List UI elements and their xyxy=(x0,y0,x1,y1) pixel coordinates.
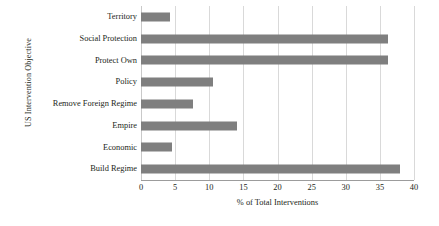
bar-row xyxy=(141,115,414,137)
bar-row xyxy=(141,28,414,50)
x-tick-label: 25 xyxy=(297,183,327,192)
bar xyxy=(141,12,170,21)
gridline-40 xyxy=(414,6,415,180)
bar-row xyxy=(141,71,414,93)
category-label: Territory xyxy=(0,6,137,28)
bar xyxy=(141,121,237,130)
x-tick-label: 35 xyxy=(365,183,395,192)
bar-row xyxy=(141,137,414,159)
category-label-list: TerritorySocial ProtectionProtect OwnPol… xyxy=(0,6,137,180)
x-tick-label: 20 xyxy=(263,183,293,192)
category-label: Economic xyxy=(0,137,137,159)
bar xyxy=(141,56,388,65)
bars-layer xyxy=(141,6,414,180)
x-axis-title: % of Total Interventions xyxy=(141,198,414,207)
x-tick-label: 10 xyxy=(194,183,224,192)
x-axis-line xyxy=(141,180,414,181)
plot-area xyxy=(141,6,414,180)
bar-chart-figure: US Intervention Objective TerritorySocia… xyxy=(0,0,439,226)
x-tick-label: 40 xyxy=(399,183,429,192)
bar xyxy=(141,99,193,108)
category-label: Build Regime xyxy=(0,158,137,180)
bar-row xyxy=(141,158,414,180)
category-label: Remove Foreign Regime xyxy=(0,93,137,115)
bar-row xyxy=(141,93,414,115)
bar-row xyxy=(141,50,414,72)
bar xyxy=(141,78,213,87)
x-axis-tick-labels: 0510152025303540 xyxy=(141,183,414,197)
bar xyxy=(141,143,172,152)
x-tick-label: 0 xyxy=(126,183,156,192)
category-label: Social Protection xyxy=(0,28,137,50)
category-label: Empire xyxy=(0,115,137,137)
x-tick-label: 15 xyxy=(228,183,258,192)
bar xyxy=(141,165,400,174)
x-tick-label: 30 xyxy=(331,183,361,192)
bar xyxy=(141,34,388,43)
category-label: Policy xyxy=(0,71,137,93)
bar-row xyxy=(141,6,414,28)
category-label: Protect Own xyxy=(0,50,137,72)
x-tick-label: 5 xyxy=(160,183,190,192)
